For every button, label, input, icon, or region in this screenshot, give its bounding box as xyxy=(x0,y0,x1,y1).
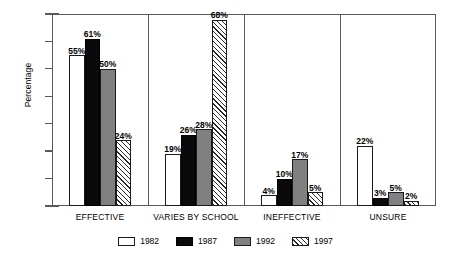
bar-unsure-1987: 3% xyxy=(373,198,389,206)
bar-value-label: 50% xyxy=(99,60,116,69)
bar-value-label: 5% xyxy=(390,184,402,193)
group-separator xyxy=(148,14,149,206)
bar-ineffective-1987: 10% xyxy=(277,179,293,206)
bar-value-label: 4% xyxy=(263,187,275,196)
bar-varies-1982: 19% xyxy=(165,154,181,206)
legend-label-1992: 1992 xyxy=(256,236,275,246)
group-separator xyxy=(340,14,341,206)
chart-legend: 1982 1987 1992 1997 xyxy=(0,236,451,246)
bar-chart: Percentage 010203040506070 55%61%50%24%1… xyxy=(0,0,451,263)
legend-item-1987: 1987 xyxy=(176,236,217,246)
bar-effective-1982: 55% xyxy=(69,55,85,206)
bar-varies-1992: 28% xyxy=(196,129,212,206)
bar-value-label: 17% xyxy=(291,151,308,160)
bar-ineffective-1997: 5% xyxy=(308,192,324,206)
bar-value-label: 24% xyxy=(115,132,132,141)
bar-varies-1997: 68% xyxy=(212,20,228,207)
legend-label-1987: 1987 xyxy=(198,236,217,246)
legend-label-1997: 1997 xyxy=(314,236,333,246)
bar-value-label: 3% xyxy=(374,189,386,198)
legend-swatch-1997-icon xyxy=(292,237,309,246)
x-label-effective: EFFECTIVE xyxy=(76,212,125,222)
bar-value-label: 22% xyxy=(356,137,373,146)
legend-swatch-1992-icon xyxy=(234,237,251,246)
bar-value-label: 19% xyxy=(164,145,181,154)
bar-value-label: 55% xyxy=(68,47,85,56)
legend-swatch-1982-icon xyxy=(118,237,135,246)
bar-unsure-1982: 22% xyxy=(357,146,373,206)
legend-item-1997: 1997 xyxy=(292,236,333,246)
plot-area: 55%61%50%24%19%26%28%68%4%10%17%5%22%3%5… xyxy=(52,14,436,206)
bar-value-label: 5% xyxy=(309,184,321,193)
bar-value-label: 61% xyxy=(84,30,101,39)
bar-effective-1997: 24% xyxy=(116,140,132,206)
legend-swatch-1987-icon xyxy=(176,237,193,246)
bar-value-label: 26% xyxy=(180,126,197,135)
bar-effective-1992: 50% xyxy=(100,69,116,206)
bar-varies-1987: 26% xyxy=(181,135,197,206)
y-axis-title: Percentage xyxy=(23,35,33,135)
x-label-unsure: UNSURE xyxy=(369,212,406,222)
bar-unsure-1997: 2% xyxy=(404,201,420,206)
group-separator xyxy=(244,14,245,206)
bar-value-label: 68% xyxy=(211,11,228,20)
bar-value-label: 10% xyxy=(276,170,293,179)
bar-effective-1987: 61% xyxy=(85,39,101,206)
x-label-ineffective: INEFFECTIVE xyxy=(263,212,320,222)
bar-value-label: 2% xyxy=(405,192,417,201)
bar-ineffective-1982: 4% xyxy=(261,195,277,206)
bar-unsure-1992: 5% xyxy=(388,192,404,206)
bar-value-label: 28% xyxy=(195,121,212,130)
bar-ineffective-1992: 17% xyxy=(292,159,308,206)
legend-label-1982: 1982 xyxy=(140,236,159,246)
legend-item-1982: 1982 xyxy=(118,236,159,246)
x-label-varies: VARIES BY SCHOOL xyxy=(153,212,239,222)
legend-item-1992: 1992 xyxy=(234,236,275,246)
